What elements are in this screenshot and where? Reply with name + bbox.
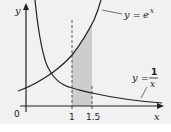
svg-text:=: = <box>133 10 141 20</box>
svg-text:=: = <box>141 73 149 83</box>
tick-label-1: 1 <box>69 112 75 122</box>
diagram-root: y x 0 1 1.5 y = e x y = 1 x <box>0 0 171 132</box>
x-axis-label: x <box>154 111 160 122</box>
svg-text:x: x <box>150 7 154 15</box>
svg-text:y: y <box>131 72 138 83</box>
svg-text:e: e <box>143 9 149 20</box>
label-reciprocal: y = 1 x <box>131 67 158 89</box>
label-exp: y = e x <box>123 7 154 20</box>
svg-text:y: y <box>123 9 130 20</box>
origin-label: 0 <box>14 109 20 119</box>
graph-svg: y x 0 1 1.5 y = e x y = 1 x <box>0 0 171 132</box>
leader-exp <box>102 10 122 14</box>
y-axis-arrow-icon <box>23 3 29 10</box>
y-axis-label: y <box>14 5 21 16</box>
svg-text:1: 1 <box>151 67 157 77</box>
svg-text:x: x <box>150 79 155 89</box>
shaded-region <box>72 23 92 106</box>
x-axis-arrow-icon <box>157 103 164 109</box>
tick-label-1-5: 1.5 <box>86 112 100 122</box>
leader-reciprocal <box>141 87 147 98</box>
